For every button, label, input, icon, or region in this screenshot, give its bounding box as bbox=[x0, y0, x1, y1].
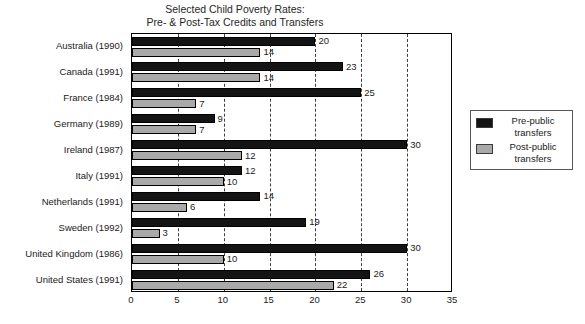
y-axis-label: Canada (1991) bbox=[0, 59, 127, 85]
bar-value-label: 3 bbox=[160, 228, 168, 238]
legend-item[interactable]: Post-publictransfers bbox=[476, 141, 568, 164]
bar-rect-pre bbox=[132, 88, 361, 97]
y-axis-label: United States (1991) bbox=[0, 266, 127, 292]
bar-value-label: 9 bbox=[215, 114, 223, 124]
bar-group: 3012 bbox=[132, 138, 451, 164]
bar-value-label: 7 bbox=[196, 99, 204, 109]
bar-rect-post bbox=[132, 229, 160, 238]
bar-pre[interactable]: 30 bbox=[132, 140, 451, 149]
bar-post[interactable]: 10 bbox=[132, 255, 451, 264]
bar-rect-post bbox=[132, 48, 260, 57]
y-axis-label: Ireland (1987) bbox=[0, 137, 127, 163]
bar-group: 257 bbox=[132, 86, 451, 112]
chart-legend: Pre-publictransfersPost-publictransfers bbox=[470, 110, 573, 170]
legend-label: Post-publictransfers bbox=[498, 141, 568, 164]
plot-area: 20142314257973012121014619330102622 bbox=[131, 33, 452, 292]
bar-value-label: 14 bbox=[260, 47, 274, 57]
bar-rect-post bbox=[132, 151, 242, 160]
x-axis-tick-labels: 05101520253035 bbox=[131, 294, 452, 310]
bar-pre[interactable]: 9 bbox=[132, 114, 451, 123]
bar-value-label: 12 bbox=[242, 151, 256, 161]
bar-rect-post bbox=[132, 255, 224, 264]
x-tick-label: 0 bbox=[128, 294, 133, 306]
bar-value-label: 23 bbox=[343, 62, 357, 72]
bar-value-label: 26 bbox=[370, 269, 384, 279]
bar-group: 2622 bbox=[132, 267, 451, 293]
y-axis-label: Netherlands (1991) bbox=[0, 188, 127, 214]
bar-rect-post bbox=[132, 177, 224, 186]
legend-label-line-1: Pre-public bbox=[498, 115, 568, 127]
bar-pre[interactable]: 12 bbox=[132, 166, 451, 175]
bar-value-label: 30 bbox=[407, 243, 421, 253]
bar-pre[interactable]: 14 bbox=[132, 192, 451, 201]
bar-post[interactable]: 7 bbox=[132, 125, 451, 134]
x-tick-label: 35 bbox=[447, 294, 458, 306]
chart-title-line-2: Pre- & Post-Tax Credits and Transfers bbox=[0, 16, 470, 29]
y-axis-label: United Kingdom (1986) bbox=[0, 240, 127, 266]
bar-post[interactable]: 10 bbox=[132, 177, 451, 186]
bar-rect-post bbox=[132, 125, 196, 134]
bar-post[interactable]: 3 bbox=[132, 229, 451, 238]
bar-post[interactable]: 14 bbox=[132, 73, 451, 82]
bar-value-label: 10 bbox=[224, 254, 238, 264]
y-axis-label: France (1984) bbox=[0, 85, 127, 111]
bar-rect-post bbox=[132, 73, 260, 82]
bar-pre[interactable]: 20 bbox=[132, 37, 451, 46]
bar-post[interactable]: 14 bbox=[132, 48, 451, 57]
x-tick-label: 10 bbox=[217, 294, 228, 306]
bar-post[interactable]: 22 bbox=[132, 281, 451, 290]
bar-post[interactable]: 7 bbox=[132, 99, 451, 108]
bar-value-label: 25 bbox=[361, 88, 375, 98]
bar-value-label: 7 bbox=[196, 125, 204, 135]
bar-value-label: 10 bbox=[224, 177, 238, 187]
x-tick-label: 25 bbox=[355, 294, 366, 306]
legend-item[interactable]: Pre-publictransfers bbox=[476, 115, 568, 138]
legend-label-line-1: Post-public bbox=[498, 141, 568, 153]
y-axis-label: Sweden (1992) bbox=[0, 214, 127, 240]
bar-post[interactable]: 12 bbox=[132, 151, 451, 160]
y-axis-label: Germany (1989) bbox=[0, 111, 127, 137]
legend-label-line-2: transfers bbox=[498, 127, 568, 139]
bar-pre[interactable]: 23 bbox=[132, 62, 451, 71]
bar-value-label: 12 bbox=[242, 166, 256, 176]
x-tick-label: 30 bbox=[401, 294, 412, 306]
bar-value-label: 30 bbox=[407, 140, 421, 150]
bar-group: 193 bbox=[132, 215, 451, 241]
bar-rect-pre bbox=[132, 166, 242, 175]
bar-rect-pre bbox=[132, 218, 306, 227]
bar-pre[interactable]: 30 bbox=[132, 244, 451, 253]
bar-rect-post bbox=[132, 281, 334, 290]
bar-group: 2014 bbox=[132, 34, 451, 60]
bar-series-layer: 20142314257973012121014619330102622 bbox=[132, 34, 451, 291]
bar-rect-pre bbox=[132, 140, 407, 149]
bar-rect-pre bbox=[132, 270, 370, 279]
bar-pre[interactable]: 25 bbox=[132, 88, 451, 97]
chart-title: Selected Child Poverty Rates: Pre- & Pos… bbox=[0, 3, 470, 29]
x-tick-label: 5 bbox=[174, 294, 179, 306]
legend-label: Pre-publictransfers bbox=[498, 115, 568, 138]
legend-swatch-post bbox=[476, 144, 493, 154]
bar-pre[interactable]: 26 bbox=[132, 270, 451, 279]
bar-rect-pre bbox=[132, 244, 407, 253]
bar-group: 2314 bbox=[132, 60, 451, 86]
y-axis-category-labels: Australia (1990)Canada (1991)France (198… bbox=[0, 33, 127, 292]
bar-value-label: 14 bbox=[260, 191, 274, 201]
bar-rect-post bbox=[132, 203, 187, 212]
bar-rect-pre bbox=[132, 37, 315, 46]
bar-value-label: 19 bbox=[306, 217, 320, 227]
x-tick-label: 15 bbox=[263, 294, 274, 306]
bar-value-label: 20 bbox=[315, 36, 329, 46]
x-tick-label: 20 bbox=[309, 294, 320, 306]
bar-value-label: 6 bbox=[187, 202, 195, 212]
bar-group: 97 bbox=[132, 112, 451, 138]
bar-value-label: 22 bbox=[334, 280, 348, 290]
bar-group: 146 bbox=[132, 189, 451, 215]
bar-group: 1210 bbox=[132, 164, 451, 190]
bar-rect-pre bbox=[132, 192, 260, 201]
y-axis-label: Australia (1990) bbox=[0, 33, 127, 59]
bar-value-label: 14 bbox=[260, 73, 274, 83]
bar-post[interactable]: 6 bbox=[132, 203, 451, 212]
bar-rect-post bbox=[132, 99, 196, 108]
bar-group: 3010 bbox=[132, 241, 451, 267]
bar-pre[interactable]: 19 bbox=[132, 218, 451, 227]
